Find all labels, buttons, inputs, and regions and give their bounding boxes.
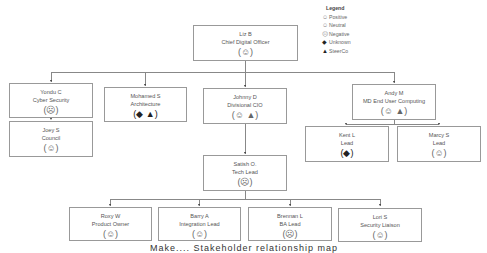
arrow-icon <box>50 80 52 82</box>
legend: Legend ☺Positive ☺Neutral ☹Negative ◆Unk… <box>322 4 372 56</box>
smile-icon: ☺ <box>322 13 329 22</box>
node-name: Johnny D <box>204 93 286 101</box>
sentiment-icons: (☺) <box>159 229 240 240</box>
sentiment-icons: (☺) <box>70 229 151 240</box>
node-role: Tech Lead <box>204 168 286 176</box>
arrow-icon <box>379 204 381 206</box>
sentiment-icons: (☺ ▲) <box>353 106 435 117</box>
legend-title: Legend <box>322 4 372 13</box>
triangle-icon: ▲ <box>322 47 329 56</box>
arrow-icon <box>50 118 52 120</box>
node-name: Brennan L <box>249 212 331 220</box>
node-name: Andy M <box>353 89 435 97</box>
sentiment-icons: (☺) <box>10 143 92 154</box>
sentiment-icons: (☺ ▲) <box>204 110 286 121</box>
legend-item-negative: ☹Negative <box>322 30 372 39</box>
node-name: Yondu C <box>10 88 92 96</box>
arrow-icon <box>393 81 395 83</box>
arrow-icon <box>244 152 246 154</box>
node-role: Council <box>10 134 92 142</box>
node-marcy[interactable]: Marcy S Lead (☺) <box>397 126 481 162</box>
node-name: Joey S <box>10 126 92 134</box>
node-name: Lori S <box>339 213 421 221</box>
node-role: Lead <box>398 139 480 147</box>
node-role: Lead <box>306 139 388 147</box>
node-brennan[interactable]: Brennan L BA Lead (☹) <box>248 207 332 241</box>
node-role: Integration Lead <box>159 220 240 228</box>
node-name: Mohamed S <box>105 92 186 100</box>
node-yondu[interactable]: Yondu C Cyber Security (☹) <box>9 83 93 118</box>
node-name: Roxy W <box>70 212 151 220</box>
node-satish[interactable]: Satish O. Tech Lead (☹) <box>203 155 287 191</box>
legend-item-unknown: ◆Unknown <box>322 38 372 47</box>
arrow-icon <box>438 123 440 125</box>
node-kent[interactable]: Kent L Lead (◆) <box>305 126 389 162</box>
arrow-icon <box>198 204 200 206</box>
node-name: Kent L <box>306 131 388 139</box>
caption: Make.... Stakeholder relationship map <box>150 243 338 253</box>
node-role: MD End User Computing <box>353 97 435 105</box>
node-role: Cyber Security <box>10 96 92 104</box>
node-roxy[interactable]: Roxy W Product Owner (☺) <box>69 207 152 241</box>
sentiment-icons: (☹) <box>204 177 286 188</box>
sentiment-icons: (☺) <box>398 148 480 159</box>
node-name: Satish O. <box>204 160 286 168</box>
node-name: Liz B <box>194 30 297 38</box>
node-role: Divisional CIO <box>204 101 286 109</box>
node-johnny[interactable]: Johnny D Divisional CIO (☺ ▲) <box>203 88 287 124</box>
node-name: Marcy S <box>398 131 480 139</box>
neutral-face-icon: ☺ <box>322 21 329 30</box>
legend-item-positive: ☺Positive <box>322 13 372 22</box>
connector <box>110 199 381 200</box>
frown-icon: ☹ <box>322 30 329 39</box>
arrow-icon <box>109 204 111 206</box>
node-barry[interactable]: Barry A Integration Lead (☺) <box>158 207 241 241</box>
node-role: Security Liaison <box>339 221 421 229</box>
connector <box>346 124 439 125</box>
node-role: Architecture <box>105 100 186 108</box>
connector <box>51 72 395 73</box>
connector <box>245 60 246 72</box>
node-mohamed[interactable]: Mohamed S Architecture (◆ ▲) <box>104 87 187 122</box>
legend-item-steerco: ▲SteerCo <box>322 47 372 56</box>
node-joey[interactable]: Joey S Council (☺) <box>9 121 93 157</box>
sentiment-icons: (☺) <box>194 47 297 58</box>
sentiment-icons: (◆) <box>306 148 388 159</box>
node-role: BA Lead <box>249 220 331 228</box>
node-role: Product Owner <box>70 220 151 228</box>
legend-item-neutral: ☺Neutral <box>322 21 372 30</box>
arrow-icon <box>144 84 146 86</box>
connector <box>245 123 246 154</box>
node-role: Chief Digital Officer <box>194 38 297 46</box>
sentiment-icons: (☹) <box>10 105 92 116</box>
arrow-icon <box>244 85 246 87</box>
sentiment-icons: (☺) <box>339 230 421 241</box>
node-andy[interactable]: Andy M MD End User Computing (☺ ▲) <box>352 84 436 120</box>
sentiment-icons: (◆ ▲) <box>105 109 186 120</box>
node-name: Barry A <box>159 212 240 220</box>
unknown-diamond-icon: ◆ <box>322 38 329 47</box>
sentiment-icons: (☹) <box>249 229 331 240</box>
node-lori[interactable]: Lori S Security Liaison (☺) <box>338 208 422 242</box>
node-liz[interactable]: Liz B Chief Digital Officer (☺) <box>193 25 298 61</box>
arrow-icon <box>345 123 347 125</box>
arrow-icon <box>289 204 291 206</box>
